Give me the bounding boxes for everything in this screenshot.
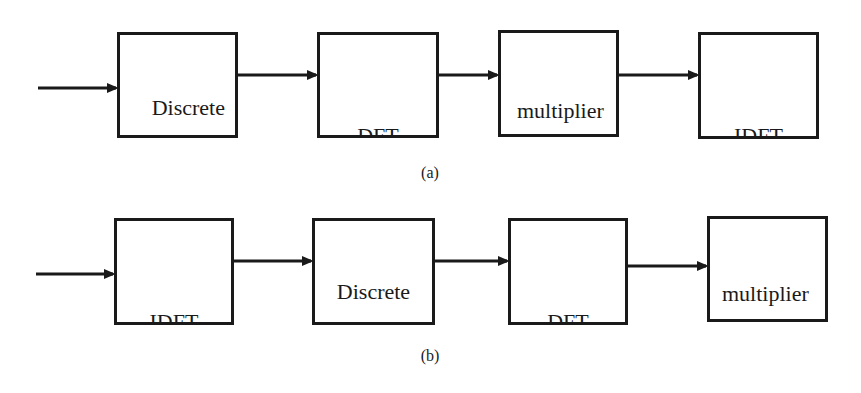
subfigure-label-b: (b)	[410, 347, 450, 365]
block-label: Discrete overall channel	[315, 229, 432, 325]
block-label: IDFT	[117, 259, 231, 325]
block-label: DFT	[320, 73, 436, 138]
block-multiplier-bank-a: multiplier bank	[498, 30, 619, 137]
block-label: IDFT	[701, 73, 816, 139]
block-discrete-overall-channel-a: Discrete overall channel	[117, 32, 238, 138]
block-idft-b: IDFT	[114, 218, 234, 325]
subfigure-label-a: (a)	[410, 164, 450, 182]
block-dft-a: DFT	[317, 32, 439, 138]
block-label: DFT	[511, 259, 625, 325]
block-discrete-overall-channel-b: Discrete overall channel	[312, 218, 435, 325]
block-idft-a: IDFT	[698, 32, 819, 139]
block-label: multiplier bank	[710, 231, 825, 322]
block-label: Discrete overall channel	[120, 45, 235, 138]
block-dft-b: DFT	[508, 218, 628, 325]
block-label: multiplier bank	[501, 48, 616, 137]
block-multiplier-bank-b: multiplier bank	[707, 216, 828, 322]
